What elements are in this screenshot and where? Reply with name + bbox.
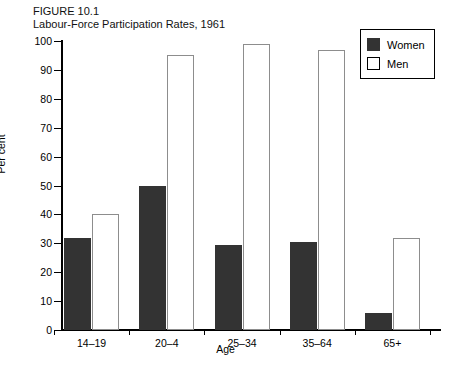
y-axis-tick-label: 40 xyxy=(8,209,52,219)
x-axis-tick xyxy=(355,330,356,335)
y-axis-tick xyxy=(54,272,62,273)
bar-women[interactable] xyxy=(139,186,166,331)
y-axis-tick-label: 100 xyxy=(8,36,52,46)
x-axis-tick xyxy=(129,330,130,335)
bar-men[interactable] xyxy=(318,50,345,330)
legend-item-label: Men xyxy=(387,58,408,70)
bar-women[interactable] xyxy=(290,242,317,330)
legend: WomenMen xyxy=(360,29,435,79)
plot-area: 14–1920–425–3435–6465+ xyxy=(62,41,438,330)
y-axis-tick-label: 70 xyxy=(8,123,52,133)
x-axis-tick xyxy=(54,330,55,335)
bar-women[interactable] xyxy=(215,245,242,330)
y-axis-tick xyxy=(54,41,62,42)
legend-item[interactable]: Men xyxy=(367,54,425,73)
y-axis-tick-label: 10 xyxy=(8,296,52,306)
y-axis-tick-label: 30 xyxy=(8,238,52,248)
y-axis-tick-label: 0 xyxy=(8,325,52,335)
bar-chart: 0102030405060708090100 Per cent 14–1920–… xyxy=(0,0,451,373)
x-axis-title: Age xyxy=(0,343,451,355)
y-axis-tick-label: 80 xyxy=(8,94,52,104)
y-axis-tick xyxy=(54,99,62,100)
y-axis-tick xyxy=(54,128,62,129)
bar-men[interactable] xyxy=(167,55,194,330)
bar-women[interactable] xyxy=(365,313,392,330)
y-axis-title: Per cent xyxy=(0,134,7,173)
legend-swatch-icon xyxy=(367,38,380,51)
y-axis-tick-label: 50 xyxy=(8,181,52,191)
y-axis-tick xyxy=(54,186,62,187)
y-axis-tick-label: 90 xyxy=(8,65,52,75)
bar-men[interactable] xyxy=(243,44,270,330)
bar-women[interactable] xyxy=(64,238,91,330)
bar-men[interactable] xyxy=(393,238,420,330)
y-axis-tick-label: 20 xyxy=(8,267,52,277)
bar-men[interactable] xyxy=(92,214,119,330)
x-axis-tick xyxy=(204,330,205,335)
y-axis-tick xyxy=(54,157,62,158)
legend-item-label: Women xyxy=(387,39,425,51)
y-axis-tick xyxy=(54,330,62,331)
y-axis-tick xyxy=(54,243,62,244)
y-axis-tick xyxy=(54,70,62,71)
legend-swatch-icon xyxy=(367,57,380,70)
legend-item[interactable]: Women xyxy=(367,35,425,54)
x-axis-tick xyxy=(280,330,281,335)
y-axis-tick xyxy=(54,301,62,302)
y-axis-tick-label: 60 xyxy=(8,152,52,162)
y-axis-tick xyxy=(54,214,62,215)
x-axis-tick xyxy=(430,330,431,335)
